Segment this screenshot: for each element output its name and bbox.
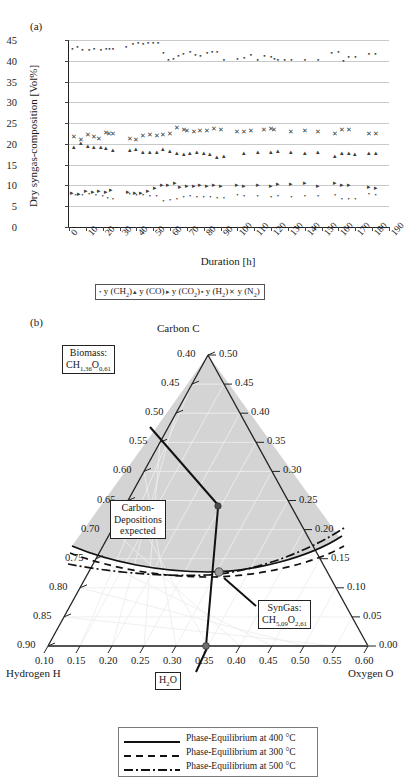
data-point: ▪ xyxy=(368,51,370,58)
data-point: ▪ xyxy=(76,43,78,50)
callout-text: expected xyxy=(114,525,162,537)
data-point: ▴ xyxy=(161,146,165,153)
x-tick-label: 30 xyxy=(120,224,134,238)
data-point: ▴ xyxy=(104,145,108,152)
legend-entry: ▸ y (CO2) xyxy=(166,286,201,296)
data-point: • xyxy=(223,195,225,202)
data-point: ▸ xyxy=(109,187,113,194)
callout-title: Biomass: xyxy=(66,347,111,359)
data-point: • xyxy=(88,191,90,198)
data-point: ▪ xyxy=(256,56,258,63)
data-point: ✕ xyxy=(241,129,247,136)
bottom-tick-mark xyxy=(172,646,176,653)
callout-biomass: Biomass:CH1,36O0,61 xyxy=(62,345,115,374)
data-point: • xyxy=(149,193,151,200)
callout-water: H2O xyxy=(155,672,181,690)
y-tick-mark xyxy=(65,165,69,166)
data-point: ✕ xyxy=(332,131,338,138)
bottom-tick-mark xyxy=(300,646,304,653)
data-point: ▪ xyxy=(152,40,154,47)
callout-carbon-deposition: Carbon-Depositionsexpected xyxy=(110,500,166,539)
bottom-tick-mark xyxy=(44,646,48,653)
left-axis-tick-label: 0.45 xyxy=(161,377,179,388)
data-point: • xyxy=(277,193,279,200)
data-point: ✕ xyxy=(373,130,379,137)
y-tick-mark xyxy=(65,40,69,41)
data-point: ▪ xyxy=(88,47,90,54)
bottom-tick-mark xyxy=(108,646,112,653)
x-tick-label: 160 xyxy=(338,220,355,237)
y-tick-label: 15 xyxy=(0,159,17,170)
data-point: ▸ xyxy=(198,182,202,189)
callout-formula: CH5,09O2,61 xyxy=(262,614,307,628)
data-point: ▪ xyxy=(137,40,139,47)
bottom-axis-tick-label: 0.60 xyxy=(355,655,373,666)
data-point: • xyxy=(317,193,319,200)
data-point: ✕ xyxy=(204,127,210,134)
ternary-gridline xyxy=(336,617,352,646)
data-point: ▸ xyxy=(178,184,182,191)
data-point: • xyxy=(142,192,144,199)
bottom-axis-tick-label: 0.10 xyxy=(35,655,53,666)
data-point: ▸ xyxy=(289,181,293,188)
curve-legend-b: Phase-Equilibrium at 400 °CPhase-Equilib… xyxy=(118,727,318,777)
data-point: ✕ xyxy=(96,136,102,143)
data-point: ✕ xyxy=(174,124,180,131)
right-axis-name: Oxygen O xyxy=(348,667,394,679)
x-tick-label: 0 xyxy=(69,227,80,237)
data-point: ▪ xyxy=(243,55,245,62)
data-point: ▴ xyxy=(374,149,378,156)
data-point: ▪ xyxy=(354,53,356,60)
callout-syngas: SynGas:CH5,09O2,61 xyxy=(258,600,311,629)
right-axis-tick-label: 0.45 xyxy=(235,377,253,388)
x-tick-label: 110 xyxy=(254,221,271,238)
y-tick-label: 0 xyxy=(0,222,17,233)
data-point: • xyxy=(112,196,114,203)
x-tick-label: 10 xyxy=(86,224,100,238)
data-point: • xyxy=(374,192,376,199)
data-point: ✕ xyxy=(261,127,267,134)
legend-label: y (N2) xyxy=(235,286,260,296)
data-point: ▴ xyxy=(168,148,172,155)
legend-line-sample xyxy=(123,761,181,771)
data-point: ▸ xyxy=(303,180,307,187)
data-point: ▴ xyxy=(128,147,132,154)
right-axis-tick-label: 0.05 xyxy=(363,610,381,621)
gridline-y xyxy=(69,144,389,145)
data-point: ▪ xyxy=(125,44,127,51)
data-point: • xyxy=(196,194,198,201)
bottom-tick-mark xyxy=(76,646,80,653)
data-point: ▴ xyxy=(340,149,344,156)
data-point: • xyxy=(347,196,349,203)
x-tick-label: 70 xyxy=(187,224,201,238)
data-point: ▸ xyxy=(212,182,216,189)
gridline-y xyxy=(69,82,389,83)
left-axis-tick-label: 0.50 xyxy=(145,406,163,417)
legend-label: y (CO2) xyxy=(170,286,201,296)
y-tick-label: 20 xyxy=(0,138,17,149)
data-point: ▴ xyxy=(182,151,186,158)
bottom-tick-mark xyxy=(332,646,336,653)
data-point: ▪ xyxy=(270,54,272,61)
data-point: ✕ xyxy=(127,136,133,143)
data-point: ▪ xyxy=(277,57,279,64)
legend-label: y (CO) xyxy=(137,286,165,296)
data-point: ▪ xyxy=(157,40,159,47)
data-point: ✕ xyxy=(154,132,160,139)
data-point: ✕ xyxy=(248,128,254,135)
data-point: ▴ xyxy=(72,144,76,151)
bottom-axis-tick-label: 0.20 xyxy=(99,655,117,666)
legend-entry: ▪ y (H2) xyxy=(201,286,228,296)
data-point: • xyxy=(75,191,77,198)
x-tick-label: 50 xyxy=(153,224,167,238)
data-point: ▪ xyxy=(263,53,265,60)
data-point: ▸ xyxy=(185,183,189,190)
data-point: ▴ xyxy=(353,151,357,158)
data-point: • xyxy=(341,195,343,202)
data-point: • xyxy=(81,192,83,199)
data-point: ✕ xyxy=(133,137,139,144)
data-point: ✕ xyxy=(339,127,345,134)
x-tick-label: 60 xyxy=(170,224,184,238)
data-point: ▪ xyxy=(273,55,275,62)
bottom-axis-tick-label: 0.55 xyxy=(323,655,341,666)
